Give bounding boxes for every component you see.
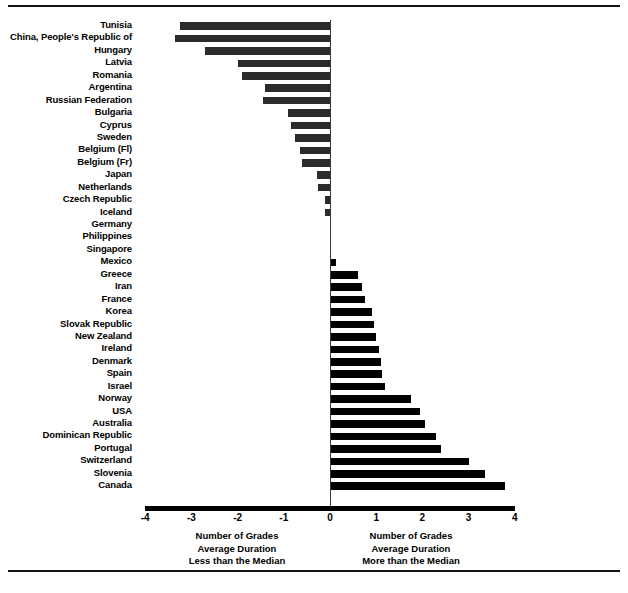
bar	[175, 35, 330, 43]
bar	[330, 458, 469, 466]
category-label: Hungary	[94, 44, 132, 56]
category-label: New Zealand	[75, 330, 132, 342]
category-label: Slovenia	[94, 467, 132, 479]
bar	[330, 433, 436, 441]
category-label: Czech Republic	[63, 193, 132, 205]
x-tick-label: 0	[327, 512, 333, 523]
bar-chart: TunisiaChina, People's Republic ofHungar…	[0, 0, 628, 593]
x-tick-label: 2	[420, 512, 426, 523]
caption-right-line2: Average Duration	[336, 543, 486, 556]
bar	[330, 383, 385, 391]
bar	[330, 358, 381, 366]
chart-row: Canada	[0, 480, 628, 492]
bar	[238, 60, 330, 68]
category-label: Sweden	[97, 131, 132, 143]
category-label: Israel	[108, 380, 132, 392]
caption-left-line2: Average Duration	[162, 543, 312, 556]
chart-row: Singapore	[0, 244, 628, 256]
caption-right-line3: More than the Median	[336, 555, 486, 568]
bar	[288, 109, 330, 117]
category-label: Canada	[98, 479, 132, 491]
bar	[330, 408, 420, 416]
x-axis-line	[145, 506, 515, 511]
axis-caption-left: Number of Grades Average Duration Less t…	[162, 530, 312, 568]
bar	[330, 420, 425, 428]
x-tick-label: 4	[512, 512, 518, 523]
category-label: Cyprus	[100, 119, 132, 131]
bar	[330, 445, 441, 453]
chart-row: Belgium (Fr)	[0, 157, 628, 169]
bar	[330, 370, 382, 378]
bar	[265, 84, 330, 92]
category-label: Dominican Republic	[42, 429, 132, 441]
category-label: Singapore	[86, 243, 132, 255]
category-label: Belgium (Fl)	[78, 143, 132, 155]
bar	[330, 333, 376, 341]
bar	[242, 72, 330, 80]
category-label: Russian Federation	[46, 94, 132, 106]
category-label: Tunisia	[100, 19, 132, 31]
x-tick-label: -2	[233, 512, 242, 523]
category-label: Norway	[98, 392, 132, 404]
bar	[330, 271, 358, 279]
chart-row: France	[0, 294, 628, 306]
bar	[330, 296, 365, 304]
category-label: Iran	[115, 280, 132, 292]
chart-row: Norway	[0, 393, 628, 405]
chart-row: Israel	[0, 381, 628, 393]
x-tick-label: -3	[187, 512, 196, 523]
category-label: Denmark	[92, 355, 132, 367]
bottom-rule	[8, 570, 620, 572]
bar	[330, 470, 485, 478]
category-label: Korea	[106, 305, 132, 317]
bar	[330, 395, 411, 403]
chart-row: Mexico	[0, 256, 628, 268]
category-label: Belgium (Fr)	[77, 156, 132, 168]
chart-row: Iran	[0, 281, 628, 293]
category-label: Australia	[92, 417, 132, 429]
chart-row: Cyprus	[0, 120, 628, 132]
category-label: Bulgaria	[95, 106, 132, 118]
bar	[330, 482, 505, 490]
category-label: China, People's Republic of	[10, 31, 132, 43]
x-tick-label: -1	[279, 512, 288, 523]
bar	[318, 184, 330, 192]
caption-right-line1: Number of Grades	[336, 530, 486, 543]
category-label: Netherlands	[78, 181, 132, 193]
chart-row: Greece	[0, 269, 628, 281]
bar	[330, 321, 374, 329]
zero-reference-line	[330, 20, 331, 507]
bar	[317, 171, 330, 179]
category-label: Latvia	[105, 56, 132, 68]
category-label: Slovak Republic	[60, 318, 132, 330]
category-label: Iceland	[100, 206, 132, 218]
chart-row: Slovenia	[0, 468, 628, 480]
category-label: Portugal	[94, 442, 132, 454]
chart-row: Czech Republic	[0, 194, 628, 206]
chart-row: New Zealand	[0, 331, 628, 343]
category-label: Argentina	[89, 81, 132, 93]
bar	[300, 147, 330, 155]
category-label: Japan	[105, 168, 132, 180]
x-tick-label: 3	[466, 512, 472, 523]
chart-row: Spain	[0, 368, 628, 380]
bar	[330, 308, 372, 316]
category-label: France	[101, 293, 132, 305]
bar	[205, 47, 330, 55]
bar	[330, 346, 379, 354]
category-label: Switzerland	[80, 454, 132, 466]
chart-row: Bulgaria	[0, 107, 628, 119]
category-label: Germany	[92, 218, 133, 230]
chart-row: Denmark	[0, 356, 628, 368]
category-label: Philippines	[82, 230, 132, 242]
category-label: Spain	[107, 367, 132, 379]
bar	[330, 283, 362, 291]
plot-area: TunisiaChina, People's Republic ofHungar…	[0, 20, 628, 500]
x-tick-label: -4	[141, 512, 150, 523]
category-label: Romania	[93, 69, 132, 81]
x-tick-label: 1	[373, 512, 379, 523]
caption-left-line3: Less than the Median	[162, 555, 312, 568]
category-label: Ireland	[102, 342, 132, 354]
caption-left-line1: Number of Grades	[162, 530, 312, 543]
category-label: Mexico	[100, 255, 132, 267]
